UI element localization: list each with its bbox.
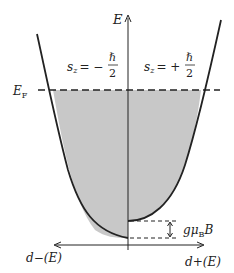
svg-text:sz= +: sz= + [144,60,180,75]
svg-text:2: 2 [186,67,193,80]
svg-text:ℏ: ℏ [109,51,116,64]
occupied-states-fill [53,90,201,238]
spin-down-label: sz= − ℏ 2 [67,51,118,80]
dos-diagram: E EF sz= − ℏ 2 sz= + ℏ 2 gμBB d−(E) d+(E… [0,0,234,273]
right-dos-label: d+(E) [185,255,221,269]
svg-text:2: 2 [109,67,116,80]
fermi-level-label: EF [12,84,28,100]
energy-axis-label: E [112,12,123,27]
left-dos-label: d−(E) [26,251,62,265]
svg-text:ℏ: ℏ [186,51,193,64]
zeeman-energy-label: gμBB [183,223,213,239]
spin-up-label: sz= + ℏ 2 [144,51,195,80]
svg-text:sz= −: sz= − [67,60,103,75]
